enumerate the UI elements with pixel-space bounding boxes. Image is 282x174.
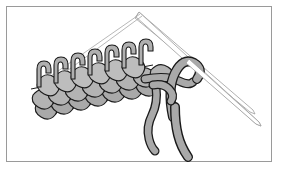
stitch-loop-7	[139, 39, 153, 65]
knitting-illustration	[7, 7, 273, 163]
figure-caption	[4, 165, 124, 173]
yarn-tail-right	[175, 107, 188, 157]
illustration-page	[0, 0, 282, 174]
needle-front-overlay	[186, 59, 261, 126]
illustration-frame	[6, 6, 272, 162]
